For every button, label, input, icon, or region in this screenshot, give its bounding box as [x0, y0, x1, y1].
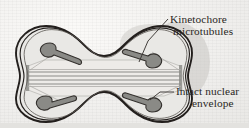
label-envelope-line1: Intact nuclear — [176, 85, 239, 97]
label-kinetochore-line1: Kinetochore — [170, 13, 227, 25]
label-kinetochore-microtubules: Kinetochore microtubules — [170, 13, 233, 38]
figure-root: Kinetochore microtubules Intact nuclear … — [0, 0, 249, 128]
label-intact-nuclear-envelope: Intact nuclear envelope — [176, 85, 239, 110]
bottom-band — [0, 123, 249, 128]
label-envelope-line2: envelope — [176, 97, 239, 109]
label-kinetochore-line2: microtubules — [170, 25, 233, 37]
